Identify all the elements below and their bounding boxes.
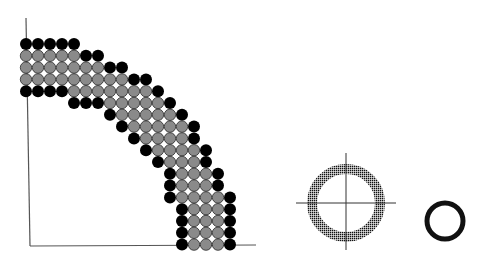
diagram-canvas [0, 0, 486, 262]
interior-circle [188, 227, 199, 238]
interior-circle [164, 109, 175, 120]
interior-circle [176, 121, 187, 132]
interior-circle [104, 97, 115, 108]
interior-circle [140, 109, 151, 120]
interior-circle [164, 121, 175, 132]
interior-circle [104, 86, 115, 97]
interior-circle [128, 86, 139, 97]
interior-circle [44, 62, 55, 73]
boundary-circle [164, 97, 176, 109]
boundary-circle [176, 203, 188, 215]
interior-circle [140, 121, 151, 132]
interior-circle [128, 109, 139, 120]
boundary-circle [140, 73, 152, 85]
boundary-circle [176, 215, 188, 227]
interior-circle [164, 145, 175, 156]
boundary-circle [92, 50, 104, 62]
interior-circle [200, 215, 211, 226]
boundary-circle [104, 109, 116, 121]
interior-circle [200, 192, 211, 203]
boundary-circle [32, 38, 44, 50]
boundary-circle [128, 73, 140, 85]
boundary-circle [152, 85, 164, 97]
interior-circle [116, 86, 127, 97]
interior-circle [92, 86, 103, 97]
interior-circle [188, 156, 199, 167]
boundary-circle [104, 62, 116, 74]
boundary-circle [164, 191, 176, 203]
boundary-circle [224, 191, 236, 203]
interior-circle [152, 109, 163, 120]
interior-circle [176, 133, 187, 144]
interior-circle [188, 215, 199, 226]
boundary-circle [188, 132, 200, 144]
interior-circle [128, 97, 139, 108]
interior-circle [200, 227, 211, 238]
interior-circle [44, 74, 55, 85]
interior-circle [80, 86, 91, 97]
interior-circle [152, 97, 163, 108]
interior-circle [92, 74, 103, 85]
boundary-circle [224, 203, 236, 215]
interior-circle [104, 74, 115, 85]
interior-circle [176, 168, 187, 179]
interior-circle [188, 145, 199, 156]
boundary-circle [56, 85, 68, 97]
interior-circle [176, 145, 187, 156]
small-ring [427, 203, 463, 239]
boundary-circle [224, 239, 236, 251]
small-ring-circle [427, 203, 463, 239]
boundary-circle [164, 180, 176, 192]
interior-circle [68, 50, 79, 61]
interior-circle [140, 97, 151, 108]
interior-circle [68, 74, 79, 85]
boundary-circle [20, 85, 32, 97]
interior-circle [176, 180, 187, 191]
boundary-circle [212, 168, 224, 180]
boundary-circle [140, 144, 152, 156]
interior-circle [56, 74, 67, 85]
boundary-circle [188, 121, 200, 133]
interior-circle [164, 156, 175, 167]
interior-circle [80, 62, 91, 73]
boundary-circle [116, 121, 128, 133]
boundary-circle [68, 38, 80, 50]
interior-circle [32, 50, 43, 61]
boundary-circle [176, 109, 188, 121]
boundary-circle [92, 97, 104, 109]
circle-packing [20, 38, 236, 251]
figure [0, 0, 486, 262]
boundary-circle [116, 62, 128, 74]
interior-circle [140, 133, 151, 144]
interior-circle [20, 62, 31, 73]
boundary-circle [32, 85, 44, 97]
interior-circle [116, 74, 127, 85]
interior-circle [56, 62, 67, 73]
interior-circle [188, 204, 199, 215]
boundary-circle [176, 239, 188, 251]
boundary-circle [200, 144, 212, 156]
boundary-circle [224, 215, 236, 227]
boundary-circle [224, 227, 236, 239]
interior-circle [176, 156, 187, 167]
interior-circle [200, 204, 211, 215]
boundary-circle [20, 38, 32, 50]
interior-circle [116, 97, 127, 108]
interior-circle [212, 227, 223, 238]
interior-circle [152, 133, 163, 144]
interior-circle [212, 204, 223, 215]
interior-circle [32, 74, 43, 85]
boundary-circle [68, 97, 80, 109]
interior-circle [200, 180, 211, 191]
interior-circle [32, 62, 43, 73]
boundary-circle [44, 85, 56, 97]
interior-circle [200, 239, 211, 250]
boundary-circle [128, 132, 140, 144]
interior-circle [80, 74, 91, 85]
boundary-circle [80, 97, 92, 109]
interior-circle [20, 50, 31, 61]
interior-circle [188, 180, 199, 191]
interior-circle [68, 86, 79, 97]
interior-circle [188, 192, 199, 203]
interior-circle [128, 121, 139, 132]
